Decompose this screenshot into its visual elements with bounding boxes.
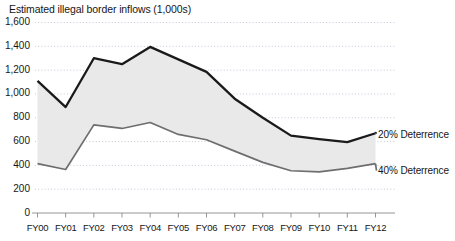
y-axis-tick-label: 600 (0, 135, 30, 146)
y-axis-tick-label: 0 (0, 207, 30, 218)
leader-line-20-deterrence (376, 132, 377, 133)
y-axis-tick-label: 1,200 (0, 64, 30, 75)
y-axis-tick-label: 1,000 (0, 87, 30, 98)
x-axis-tick-label: FY12 (359, 222, 393, 233)
y-axis-tick-label: 1,600 (0, 16, 30, 27)
series-label-20-deterrence: 20% Deterrence (378, 129, 449, 140)
chart-plot-area (0, 0, 455, 241)
series-band-fill (38, 47, 376, 172)
leader-line-40-deterrence (376, 164, 377, 171)
series-label-40-deterrence: 40% Deterrence (378, 165, 449, 176)
y-axis-tick-label: 800 (0, 111, 30, 122)
y-axis-tick-label: 400 (0, 159, 30, 170)
y-axis-tick-label: 1,400 (0, 40, 30, 51)
chart-container: Estimated illegal border inflows (1,000s… (0, 0, 455, 241)
y-axis-tick-label: 200 (0, 183, 30, 194)
